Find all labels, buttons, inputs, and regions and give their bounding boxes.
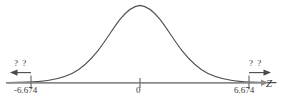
right-tail-arrowhead-icon <box>264 69 272 75</box>
left-tail-arrowhead-icon <box>10 69 18 75</box>
x-tick-label-left: -6.674 <box>14 85 37 95</box>
x-axis-label: Z <box>266 77 272 89</box>
x-tick-label-center: 0 <box>136 85 141 95</box>
normal-distribution-figure: -6.674 0 6.674 ? ? ? ? Z <box>0 0 284 108</box>
left-tail-area-label: ? ? <box>14 58 27 68</box>
right-tail-area-label: ? ? <box>249 58 262 68</box>
x-tick-label-right: 6.674 <box>234 85 254 95</box>
normal-curve <box>8 5 276 82</box>
